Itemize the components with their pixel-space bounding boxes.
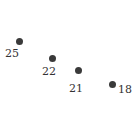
data-label-2: 22 <box>42 66 56 77</box>
data-label-3: 21 <box>69 83 83 94</box>
data-point-3 <box>75 67 82 74</box>
data-point-1 <box>16 38 23 45</box>
data-label-4: 18 <box>118 84 132 95</box>
scatter-chart: 25 22 21 18 <box>0 0 132 119</box>
data-label-1: 25 <box>5 48 19 59</box>
data-point-4 <box>109 81 116 88</box>
data-point-2 <box>49 55 56 62</box>
